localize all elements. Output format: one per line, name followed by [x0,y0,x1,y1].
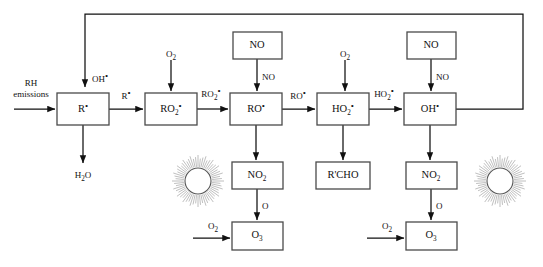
label-ro-to-ho2: RO• [290,88,306,101]
label-rh-emissions-line2: emissions [13,89,49,99]
label-o-right: O [436,201,443,211]
label-rcho: R'CHO [327,169,358,180]
sun-icon-left [172,155,224,207]
label-h2o-output: H2O [75,170,92,183]
label-ho2-to-oh: HO2• [374,86,394,102]
label-no-source-right: NO [423,39,439,50]
diagram-canvas: R• RO2• RO• HO2• OH• NO NO NO2 NO2 R'CHO… [0,0,543,267]
sun-icon-right [474,155,526,207]
vertical-arrows [83,59,431,238]
label-ro2-radical: RO2• [160,101,181,117]
label-rh-emissions-line1: RH [25,78,38,88]
label-no-to-oh: NO [436,72,449,82]
label-r-to-ro2: R• [121,88,130,101]
label-o2-to-o3-right: O2 [382,221,393,234]
label-oh-feedback: OH• [92,71,108,84]
photochemical-smog-diagram: R• RO2• RO• HO2• OH• NO NO NO2 NO2 R'CHO… [0,0,543,267]
label-no-to-ro: NO [262,72,275,82]
label-no-source-left: NO [249,39,265,50]
label-ho2-radical: HO2• [332,101,354,117]
label-ro2-to-ro: RO2• [201,86,220,102]
label-o-left: O [262,201,269,211]
label-o2-to-o3-left: O2 [208,221,219,234]
